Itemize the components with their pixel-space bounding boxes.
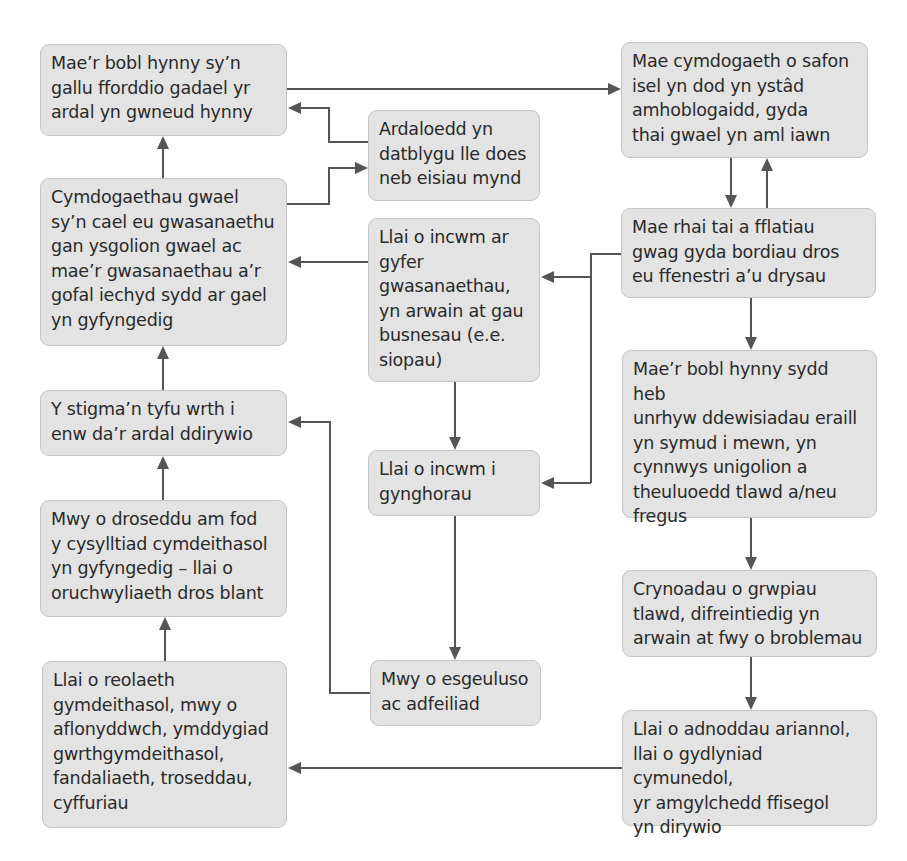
node-fewer-resources: Llai o adnoddau ariannol, llai o gydlyni… (622, 710, 877, 826)
connector-councils-to-neglect (449, 516, 461, 660)
arrowhead-icon (745, 557, 757, 570)
connector-crime-to-stigma (157, 456, 169, 500)
node-no-go-areas: Ardaloedd yn datblygu lle does neb eisia… (368, 110, 540, 201)
arrowhead-icon (157, 136, 169, 149)
arrowhead-icon (355, 162, 368, 174)
connector-nogo-to-leavers (288, 102, 368, 142)
connector-boarded-to-estate (761, 158, 773, 208)
arrowhead-icon (541, 271, 554, 283)
arrowhead-icon (608, 83, 621, 95)
node-less-income-councils: Llai o incwm i gynghorau (368, 450, 540, 516)
connector-neighbourhoods-to-leavers (157, 136, 169, 178)
arrowhead-icon (745, 337, 757, 350)
connector-boarded-to-income (541, 254, 621, 489)
node-neglect: Mwy o esgeuluso ac adfeiliad (370, 660, 541, 726)
connector-neglect-to-stigma (288, 416, 370, 693)
connector-leavers-to-estate (287, 83, 621, 95)
node-concentrations: Crynoadau o grwpiau tlawd, difreintiedig… (622, 570, 877, 657)
arrowhead-icon (449, 437, 461, 450)
arrowhead-icon (761, 158, 773, 171)
node-less-social-control: Llai o reolaeth gymdeithasol, mwy o aflo… (42, 661, 287, 828)
node-stigma: Y stigma’n tyfu wrth i enw da’r ardal dd… (40, 390, 287, 456)
node-poor-neighbourhoods: Cymdogaethau gwael sy’n cael eu gwasanae… (40, 178, 287, 346)
connector-estate-to-boarded (725, 158, 737, 208)
connector-control-to-crime (159, 617, 171, 661)
node-incomers: Mae’r bobl hynny sydd heb unrhyw ddewisi… (622, 350, 877, 518)
connector-services-to-neighbourhoods (288, 256, 368, 268)
node-less-income-services: Llai o incwm ar gyfer gwasanaethau, yn a… (368, 218, 540, 382)
arrowhead-icon (541, 477, 554, 489)
node-low-quality-estate: Mae cymdogaeth o safon isel yn dod yn ys… (621, 42, 868, 158)
arrowhead-icon (288, 416, 301, 428)
arrowhead-icon (288, 256, 301, 268)
connector-services-to-councils (449, 382, 461, 450)
connector-neighbourhoods-to-nogo (287, 162, 368, 204)
arrowhead-icon (157, 346, 169, 359)
arrowhead-icon (725, 195, 737, 208)
arrowhead-icon (157, 456, 169, 469)
flowchart-diagram: Mae’r bobl hynny sy’n gallu fforddio gad… (0, 0, 907, 861)
arrowhead-icon (288, 102, 301, 114)
arrowhead-icon (288, 762, 301, 774)
node-boarded-homes: Mae rhai tai a fflatiau gwag gyda bordia… (621, 208, 876, 298)
arrowhead-icon (159, 617, 171, 630)
arrowhead-icon (745, 697, 757, 710)
connector-resources-to-control (288, 762, 622, 774)
connector-stigma-to-neighbourhoods (157, 346, 169, 390)
connector-concentrations-to-resources (745, 657, 757, 710)
arrowhead-icon (449, 647, 461, 660)
connector-incomers-to-concentrations (745, 518, 757, 570)
node-leavers: Mae’r bobl hynny sy’n gallu fforddio gad… (40, 44, 287, 136)
connector-boarded-to-incomers (745, 298, 757, 350)
node-more-crime: Mwy o droseddu am fod y cysylltiad cymde… (40, 500, 287, 617)
